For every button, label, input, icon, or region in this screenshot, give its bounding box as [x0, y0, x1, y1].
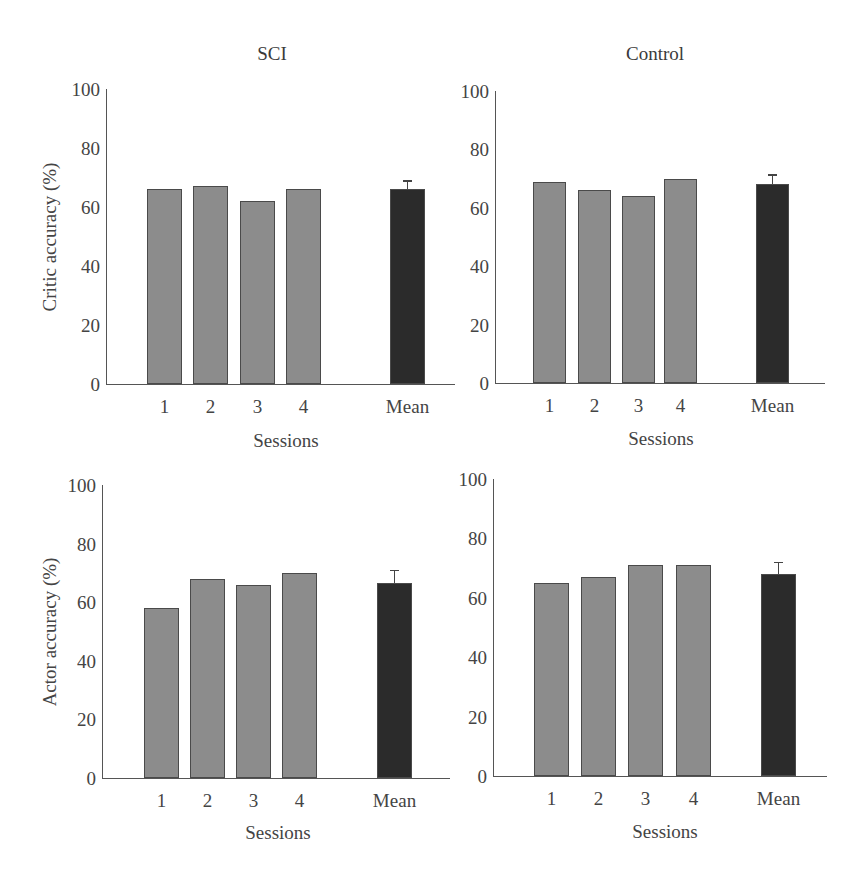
bar-session-3 [240, 201, 275, 384]
y-tick-label: 80 [447, 528, 487, 550]
y-tick-label: 100 [60, 79, 100, 101]
y-tick-label: 40 [56, 651, 96, 673]
y-axis [493, 479, 494, 776]
x-tick-label: 2 [203, 790, 213, 812]
y-tick-label: 80 [60, 138, 100, 160]
y-tick-label: 20 [56, 709, 96, 731]
y-tick-label: 100 [56, 475, 96, 497]
bar-session-1 [147, 189, 182, 384]
bar-session-4 [282, 573, 317, 778]
x-tick-label: 1 [157, 790, 167, 812]
x-tick-label: 3 [253, 396, 263, 418]
y-tick-label: 0 [449, 373, 489, 395]
error-bar [778, 562, 779, 574]
error-bar [772, 174, 773, 184]
x-tick-label: 2 [594, 788, 604, 810]
bar-mean [761, 574, 796, 776]
error-bar-cap [768, 174, 777, 175]
x-tick-label: 4 [295, 790, 305, 812]
y-tick-label: 100 [449, 81, 489, 103]
y-tick-label: 0 [60, 374, 100, 396]
bar-session-2 [193, 186, 228, 384]
y-tick-label: 60 [449, 198, 489, 220]
y-tick-label: 0 [447, 766, 487, 788]
bar-session-4 [664, 179, 697, 383]
x-axis [102, 778, 450, 779]
y-tick-label: 40 [60, 256, 100, 278]
x-tick-label: 4 [676, 395, 686, 417]
x-axis-label: Sessions [628, 428, 693, 450]
bar-session-2 [190, 579, 225, 778]
y-axis [106, 89, 107, 384]
bar-mean [377, 583, 412, 778]
y-axis-label: Actor accuracy (%) [39, 557, 61, 706]
bar-session-1 [534, 583, 569, 776]
x-tick-label: 3 [641, 788, 651, 810]
x-axis [495, 383, 825, 384]
y-axis-label: Critic accuracy (%) [39, 162, 61, 311]
y-tick-label: 60 [60, 197, 100, 219]
x-tick-label: 2 [590, 395, 600, 417]
bar-session-2 [581, 577, 616, 776]
x-axis-label: Sessions [632, 821, 697, 843]
x-axis [106, 384, 455, 385]
y-tick-label: 20 [60, 315, 100, 337]
x-tick-label: 2 [206, 396, 216, 418]
x-tick-label: 1 [160, 396, 170, 418]
y-tick-label: 80 [56, 534, 96, 556]
column-title-sci: SCI [257, 43, 287, 65]
x-tick-label: 3 [634, 395, 644, 417]
x-axis [493, 776, 827, 777]
y-tick-label: 0 [56, 768, 96, 790]
y-tick-label: 20 [447, 707, 487, 729]
x-tick-label: 4 [689, 788, 699, 810]
x-tick-label: Mean [757, 788, 800, 810]
bar-session-1 [533, 182, 566, 383]
bar-session-2 [578, 190, 611, 383]
bar-session-4 [676, 565, 711, 776]
bar-mean [390, 189, 425, 384]
x-tick-label: 1 [547, 788, 557, 810]
y-tick-label: 60 [56, 592, 96, 614]
bar-mean [756, 184, 789, 383]
x-tick-label: 4 [299, 396, 309, 418]
y-axis [495, 91, 496, 383]
bar-session-3 [236, 585, 271, 778]
error-bar-cap [774, 562, 783, 563]
x-tick-label: Mean [751, 395, 794, 417]
y-tick-label: 60 [447, 588, 487, 610]
error-bar-cap [403, 180, 412, 181]
y-axis [102, 485, 103, 778]
x-tick-label: Mean [386, 396, 429, 418]
bar-session-4 [286, 189, 321, 384]
column-title-control: Control [626, 43, 684, 65]
x-axis-label: Sessions [253, 430, 318, 452]
y-tick-label: 40 [447, 647, 487, 669]
bar-session-1 [144, 608, 179, 778]
error-bar [407, 180, 408, 189]
y-tick-label: 40 [449, 256, 489, 278]
x-tick-label: Mean [373, 790, 416, 812]
bar-session-3 [628, 565, 663, 776]
x-axis-label: Sessions [245, 822, 310, 844]
error-bar-cap [390, 570, 399, 571]
y-tick-label: 80 [449, 139, 489, 161]
error-bar [394, 570, 395, 583]
x-tick-label: 3 [249, 790, 259, 812]
y-tick-label: 100 [447, 469, 487, 491]
y-tick-label: 20 [449, 315, 489, 337]
bar-session-3 [622, 196, 655, 383]
x-tick-label: 1 [545, 395, 555, 417]
